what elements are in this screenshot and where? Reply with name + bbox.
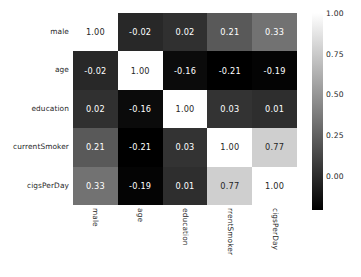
heatmap-grid: 1.00-0.020.020.210.33-0.021.00-0.16-0.21… (73, 13, 297, 205)
x-tick-slot: male (73, 205, 118, 275)
cell-value: 1.00 (265, 181, 284, 191)
cell-value: 0.03 (175, 142, 194, 152)
heatmap-cell: -0.19 (118, 167, 163, 205)
heatmap-cell: 1.00 (207, 128, 252, 166)
colorbar-tick-1.00: 1.00 (326, 9, 344, 18)
colorbar-tick-0.75: 0.75 (326, 49, 344, 58)
heatmap-cell: 0.01 (163, 167, 208, 205)
heatmap-cell: 0.02 (73, 90, 118, 128)
cell-value: 1.00 (175, 104, 194, 114)
cell-value: -0.02 (84, 66, 106, 76)
cell-value: -0.21 (219, 66, 241, 76)
heatmap-cell: 0.03 (207, 90, 252, 128)
cell-value: 0.21 (220, 27, 239, 37)
x-tick-label-male: male (91, 208, 100, 227)
x-tick-slot: age (118, 205, 163, 275)
y-tick-label-male: male (0, 13, 69, 51)
cell-value: 0.01 (265, 104, 284, 114)
heatmap-cell: 0.21 (207, 13, 252, 51)
cell-value: 1.00 (220, 142, 239, 152)
heatmap-cell: 1.00 (163, 90, 208, 128)
cell-value: -0.16 (129, 104, 151, 114)
cell-value: -0.16 (174, 66, 196, 76)
cell-value: 0.77 (265, 142, 284, 152)
x-tick-label-cigsPerDay: cigsPerDay (270, 208, 279, 250)
heatmap-cell: 0.77 (252, 128, 297, 166)
cell-value: 0.33 (265, 27, 284, 37)
y-tick-label-education: education (0, 90, 69, 128)
cell-value: 0.21 (86, 142, 105, 152)
colorbar-gradient (312, 13, 323, 210)
y-tick-label-cigsPerDay: cigsPerDay (0, 167, 69, 205)
cell-value: 0.03 (220, 104, 239, 114)
heatmap-cell: 0.33 (73, 167, 118, 205)
cell-value: 0.01 (175, 181, 194, 191)
x-tick-label-age: age (136, 208, 145, 222)
cell-value: 0.02 (175, 27, 194, 37)
heatmap-cell: 1.00 (118, 51, 163, 89)
y-tick-label-currentSmoker: currentSmoker (0, 128, 69, 166)
colorbar-tick-0.50: 0.50 (326, 90, 344, 99)
x-tick-slot: education (163, 205, 208, 275)
heatmap-cell: 0.02 (163, 13, 208, 51)
cell-value: -0.02 (129, 27, 151, 37)
cell-value: 0.77 (220, 181, 239, 191)
heatmap-cell: -0.02 (118, 13, 163, 51)
heatmap-cell: 0.03 (163, 128, 208, 166)
heatmap-cell: -0.19 (252, 51, 297, 89)
cell-value: -0.19 (263, 66, 285, 76)
cell-value: 0.33 (86, 181, 105, 191)
heatmap-cell: -0.21 (207, 51, 252, 89)
y-tick-label-age: age (0, 51, 69, 89)
y-axis-tick-labels: maleageeducationcurrentSmokercigsPerDay (0, 13, 69, 205)
x-axis-tick-labels: maleageeducationrrentSmokercigsPerDay (73, 205, 297, 275)
heatmap-cell: -0.02 (73, 51, 118, 89)
cell-value: 1.00 (86, 27, 105, 37)
heatmap-cell: -0.16 (118, 90, 163, 128)
cell-value: 0.02 (86, 104, 105, 114)
cell-value: -0.19 (129, 181, 151, 191)
heatmap-cell: 0.01 (252, 90, 297, 128)
cell-value: -0.21 (129, 142, 151, 152)
colorbar-tick-0.25: 0.25 (326, 131, 344, 140)
x-tick-slot: rrentSmoker (207, 205, 252, 275)
colorbar-tick-0.00: 0.00 (326, 171, 344, 180)
cell-value: 1.00 (131, 66, 150, 76)
heatmap-cell: -0.21 (118, 128, 163, 166)
x-tick-slot: cigsPerDay (252, 205, 297, 275)
correlation-heatmap-figure: maleageeducationcurrentSmokercigsPerDay … (0, 0, 361, 277)
heatmap-cell: -0.16 (163, 51, 208, 89)
heatmap-cell: 0.33 (252, 13, 297, 51)
heatmap-cell: 0.77 (207, 167, 252, 205)
heatmap-cell: 1.00 (252, 167, 297, 205)
heatmap-cell: 0.21 (73, 128, 118, 166)
colorbar-tick-labels: 1.000.750.500.250.00 (326, 13, 360, 210)
x-tick-label-education: education (180, 208, 189, 246)
x-tick-label-currentSmoker: rrentSmoker (225, 208, 234, 255)
heatmap-cell: 1.00 (73, 13, 118, 51)
